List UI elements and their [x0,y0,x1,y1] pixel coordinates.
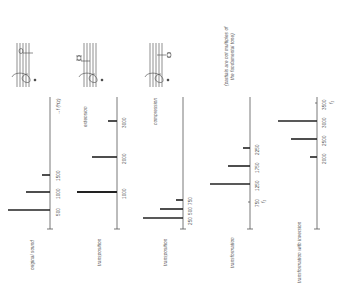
annotation-line-2: the fundamental tone) [230,33,235,80]
tick-ext-3000: 3000 [122,117,127,128]
tick-ext-2000: 2000 [122,153,127,164]
tick-trans-2250: 2250 [255,144,260,155]
f1-label-inv: f₁ [329,101,334,104]
staff-label-extension: extension [83,106,88,127]
staff-extension [76,43,103,87]
panel-label-transposition-1: transposition [97,239,102,266]
tick-inv-3000: 3000 [322,117,327,128]
staff-label-compression: compression [153,98,158,125]
panel-label-transposition-2: transposition [163,239,168,266]
staff-compression [145,43,171,87]
tick-inv-2500: 2500 [322,135,327,146]
panel-label-transformation: transformation [230,237,235,268]
panel-label-inversion: transformation with inversion [297,222,302,283]
tick-inv-2000: 2000 [322,153,327,164]
f1-label-trans: f₁ [261,200,266,203]
tick-original-1000: 1000 [56,188,61,199]
tick-original-500: 500 [56,208,61,216]
axis-unit-label: →f (Hz) [56,98,61,115]
tick-original-1500: 1500 [56,170,61,181]
figure: original sound transposition transpositi… [0,0,340,295]
tick-comp-250: 250 [188,217,193,225]
panel-label-original: original sound [30,240,35,270]
tick-comp-500: 500 [188,207,193,215]
staff-original [12,43,36,87]
tick-inv-3500: 3500 [322,99,327,110]
spectra-diagram [0,0,340,295]
tick-trans-1250: 1250 [255,180,260,191]
tick-ext-1000: 1000 [122,188,127,199]
tick-trans-1750: 1750 [255,162,260,173]
annotation-line-1: (partials are not multiples of [224,27,229,86]
tick-trans-750: 750 [255,199,260,207]
tick-comp-750: 750 [188,197,193,205]
